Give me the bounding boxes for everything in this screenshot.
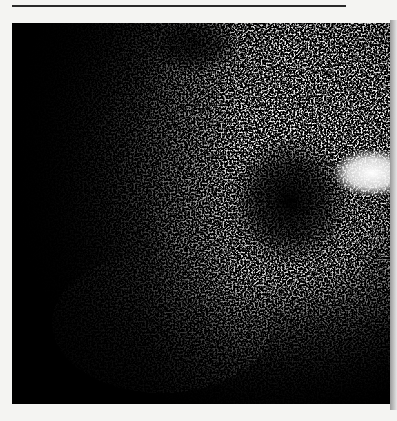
speckle-photograph xyxy=(12,23,392,404)
top-horizontal-rule xyxy=(12,5,346,7)
scan-edge-shadow xyxy=(390,20,397,410)
speckle-image xyxy=(12,23,392,404)
